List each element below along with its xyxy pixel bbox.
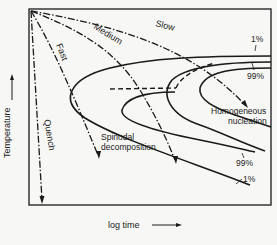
slow-label: Slow [155,18,177,33]
x-axis-label: log time [108,220,140,230]
bottom-1pct-label: 1% [243,174,256,184]
dashed-connector-lower [110,88,176,89]
y-axis-label: Temperature [2,107,12,158]
top-1pct-label: 1% [251,34,264,44]
bottom-99pct-label: 99% [236,158,253,168]
homogeneous-label-line2: nucleation [228,116,267,126]
spinodal-label-line2: decomposition [101,142,156,152]
y-axis-arrow-icon [10,74,14,80]
top-99pct-label: 99% [247,71,264,81]
ttt-diagram: Temperature log time Quench Fast Medium … [0,0,277,245]
medium-arrow-icon [173,156,178,164]
spinodal-label-line1: Spinodal [101,132,134,142]
quench-path [31,11,42,200]
quench-label: Quench [42,119,57,152]
fast-path [31,11,98,155]
fast-arrow-icon [96,151,101,159]
quench-arrow-icon [40,196,45,204]
medium-label: Medium [92,21,124,46]
x-axis-arrow-icon [176,223,182,227]
homogeneous-label-line1: Homogeneous [211,106,266,116]
